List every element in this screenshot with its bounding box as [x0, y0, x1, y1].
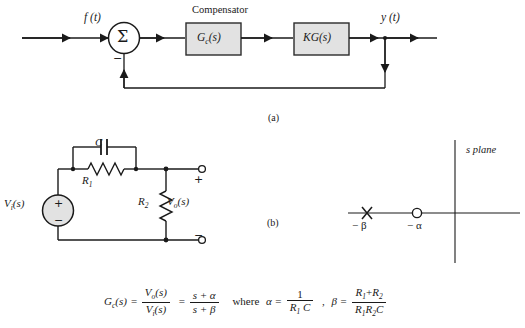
- input-signal-label: f (t): [84, 12, 101, 24]
- r1-subscript: 1: [89, 180, 93, 189]
- eq-frac2-denominator: s + β: [190, 302, 219, 315]
- eq-frac1-numerator: Vo(s): [142, 286, 170, 302]
- eq-where-word: where: [232, 295, 259, 307]
- eq-fraction-vo-vi: Vo(s) Vi(s): [142, 286, 170, 318]
- pole-label: − β: [352, 220, 367, 231]
- resistor-r1-label: R1: [82, 175, 92, 189]
- source-minus-sign: −: [54, 215, 63, 226]
- s-plane-title: s plane: [466, 145, 496, 156]
- zero-marker: [412, 208, 421, 217]
- vi-letter: V: [4, 197, 11, 209]
- eq-beta-num-r2: R: [372, 286, 379, 298]
- eq-vo-letter: V: [145, 286, 152, 298]
- output-voltage-label: Vo(s): [167, 196, 189, 210]
- r1-letter: R: [82, 174, 89, 186]
- circuit-svg: [18, 135, 248, 265]
- eq-fraction-beta: R1+R2 R1R2C: [352, 286, 386, 318]
- eq-alpha-c: C: [303, 301, 310, 313]
- caption-a: (a): [268, 113, 279, 123]
- resistor-r1-zigzag: [88, 163, 124, 175]
- eq-beta-numerator: R1+R2: [352, 286, 386, 302]
- eq-gc-arg: (s): [115, 295, 127, 307]
- output-terminal-plus: [199, 166, 206, 173]
- eq-gc-letter: G: [104, 295, 112, 307]
- eq-beta-num-r2-subscript: 2: [379, 292, 383, 301]
- terminal-minus-sign: −: [194, 230, 203, 241]
- terminal-plus-sign: +: [194, 174, 203, 185]
- eq-equals-1: =: [131, 295, 137, 307]
- summer-minus-sign: −: [113, 53, 122, 64]
- plant-arg: (s): [319, 31, 331, 43]
- summer-symbol: Σ: [117, 29, 128, 45]
- eq-frac2-numerator: s + α: [190, 289, 219, 301]
- eq-frac1-denominator: Vi(s): [142, 302, 170, 319]
- eq-vi-arg: (s): [155, 303, 167, 315]
- eq-fraction-zero-pole: s + α s + β: [190, 289, 219, 315]
- transfer-function-equation: Gc(s)= Vo(s) Vi(s) = s + α s + β where α…: [104, 286, 388, 318]
- eq-fraction-alpha: 1 R1 C: [287, 288, 314, 317]
- source-plus-sign: +: [54, 198, 63, 209]
- r2-subscript: 2: [145, 201, 149, 210]
- compensator-arg: (s): [209, 31, 221, 43]
- eq-beta-symbol: β =: [332, 295, 348, 307]
- eq-equals-2: =: [179, 295, 185, 307]
- eq-alpha-r1-subscript: 1: [296, 307, 300, 316]
- compensator-title: Compensator: [192, 5, 248, 16]
- block-diagram-svg: [0, 0, 525, 110]
- s-plane-svg: [340, 135, 525, 265]
- plant-block-label: KG(s): [303, 32, 331, 44]
- vo-letter: V: [167, 195, 174, 207]
- resistor-r2-label: R2: [138, 196, 148, 210]
- figure-root: Compensator f (t) y (t) Σ − Gc(s) KG(s) …: [0, 0, 525, 328]
- vo-arg: (s): [177, 195, 189, 207]
- source-label: Vi(s): [4, 198, 24, 212]
- vi-arg: (s): [13, 197, 25, 209]
- eq-alpha-numerator: 1: [287, 288, 314, 300]
- compensator-block-label: Gc(s): [197, 32, 221, 46]
- r2-letter: R: [138, 195, 145, 207]
- zero-label: − α: [407, 220, 422, 231]
- output-signal-label: y (t): [381, 12, 400, 24]
- eq-vo-arg: (s): [155, 286, 167, 298]
- capacitor-label: C: [95, 137, 102, 148]
- eq-comma: ,: [322, 295, 325, 307]
- eq-beta-denominator: R1R2C: [352, 302, 386, 319]
- eq-beta-den-c: C: [376, 303, 383, 315]
- plant-kg: KG: [303, 31, 319, 43]
- s-plane-title-text: s plane: [466, 144, 496, 155]
- caption-b: (b): [267, 218, 279, 228]
- eq-alpha-denominator: R1 C: [287, 300, 314, 317]
- eq-alpha-symbol: α =: [266, 295, 282, 307]
- eq-beta-den-r1: R: [355, 303, 362, 315]
